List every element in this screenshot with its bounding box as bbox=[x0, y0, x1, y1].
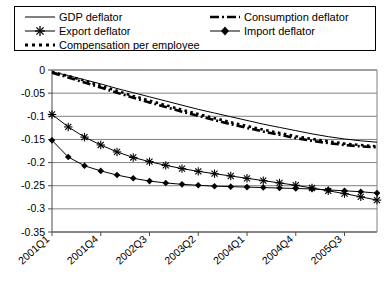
chart-legend: GDP deflator Consumption deflator Export… bbox=[14, 6, 376, 51]
series-line bbox=[52, 72, 377, 147]
data-point-marker bbox=[114, 172, 121, 179]
line-with-star-marker-icon bbox=[23, 25, 57, 37]
data-point-marker bbox=[244, 184, 251, 191]
data-point-marker bbox=[113, 148, 121, 156]
data-point-marker bbox=[309, 186, 316, 193]
data-point-marker bbox=[162, 161, 170, 169]
y-tick-label: -0.1 bbox=[27, 110, 45, 122]
x-tick-label: 2001Q4 bbox=[64, 232, 100, 266]
legend-item-gdp-deflator: GDP deflator bbox=[23, 10, 122, 24]
data-point-marker bbox=[178, 164, 186, 172]
legend-label: Consumption deflator bbox=[244, 12, 349, 23]
data-point-marker bbox=[64, 123, 72, 131]
x-tick-label: 2004Q1 bbox=[211, 232, 247, 266]
y-tick-label: -0.15 bbox=[21, 133, 45, 145]
data-point-marker bbox=[81, 163, 88, 170]
data-point-marker bbox=[227, 183, 234, 190]
y-tick-label: -0.25 bbox=[21, 179, 45, 191]
y-tick-label: -0.2 bbox=[27, 156, 45, 168]
chart-canvas: 0-0.05-0.1-0.15-0.2-0.25-0.3-0.352001Q12… bbox=[0, 52, 390, 284]
legend-label: Compensation per employee bbox=[59, 40, 200, 51]
y-tick-label: -0.05 bbox=[21, 87, 45, 99]
legend-label: GDP deflator bbox=[59, 12, 122, 23]
data-point-marker bbox=[129, 153, 137, 161]
legend-item-import-deflator: Import deflator bbox=[208, 24, 315, 38]
y-tick-label: -0.3 bbox=[27, 202, 45, 214]
data-point-marker bbox=[259, 176, 267, 184]
data-point-marker bbox=[194, 167, 202, 175]
y-tick-label: 0 bbox=[39, 64, 45, 76]
chart-plot-area: 0-0.05-0.1-0.15-0.2-0.25-0.3-0.352001Q12… bbox=[0, 52, 390, 284]
data-point-marker bbox=[80, 133, 88, 141]
dotted-thick-line-icon bbox=[23, 39, 57, 51]
data-point-marker bbox=[145, 157, 153, 165]
data-point-marker bbox=[243, 174, 251, 182]
chart-screenshot: GDP deflator Consumption deflator Export… bbox=[0, 0, 390, 284]
x-tick-label: 2002Q3 bbox=[113, 232, 149, 266]
data-point-marker bbox=[97, 141, 105, 149]
solid-thin-line-icon bbox=[23, 11, 57, 23]
dash-dot-thick-line-icon bbox=[208, 11, 242, 23]
data-point-marker bbox=[130, 175, 137, 182]
data-point-marker bbox=[48, 110, 56, 118]
legend-item-compensation-per-employee: Compensation per employee bbox=[23, 38, 200, 52]
data-point-marker bbox=[211, 183, 218, 190]
x-tick-label: 2003Q2 bbox=[162, 232, 198, 266]
data-point-marker bbox=[210, 169, 218, 177]
legend-label: Export deflator bbox=[59, 26, 131, 37]
data-point-marker bbox=[325, 187, 332, 194]
data-point-marker bbox=[227, 172, 235, 180]
data-point-marker bbox=[374, 190, 381, 197]
legend-item-consumption-deflator: Consumption deflator bbox=[208, 10, 349, 24]
data-point-marker bbox=[146, 178, 153, 185]
legend-label: Import deflator bbox=[244, 26, 315, 37]
data-point-marker bbox=[195, 182, 202, 189]
x-tick-label: 2004Q4 bbox=[259, 232, 295, 266]
series-line bbox=[52, 72, 377, 142]
x-tick-label: 2005Q3 bbox=[308, 232, 344, 266]
data-point-marker bbox=[373, 196, 381, 204]
data-point-marker bbox=[179, 181, 186, 188]
data-point-marker bbox=[97, 168, 104, 175]
line-with-diamond-marker-icon bbox=[208, 25, 242, 37]
legend-item-export-deflator: Export deflator bbox=[23, 24, 131, 38]
